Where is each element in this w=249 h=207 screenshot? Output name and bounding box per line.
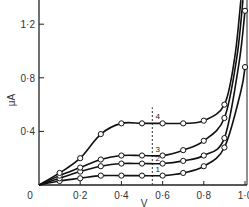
x-axis-label: V: [141, 198, 148, 207]
data-point-marker: [222, 145, 227, 150]
data-point-marker: [139, 153, 144, 158]
x-tick-label: 0·8: [197, 190, 212, 201]
data-point-marker: [139, 121, 144, 126]
data-point-marker: [119, 153, 124, 158]
data-point-marker: [139, 161, 144, 166]
data-point-marker: [78, 165, 83, 170]
curve-label-2: 2: [155, 154, 160, 163]
x-tick-label: 1·0: [238, 190, 249, 201]
data-point-marker: [119, 121, 124, 126]
data-point-marker: [201, 138, 206, 143]
curve-label-1: 1: [155, 165, 160, 174]
data-point-marker: [181, 148, 186, 153]
y-tick-label: 1·2: [21, 19, 36, 30]
data-point-marker: [242, 64, 247, 69]
data-point-marker: [78, 156, 83, 161]
y-tick-label: 0·4: [21, 126, 36, 137]
data-point-marker: [57, 170, 62, 175]
x-tick-label: 0·6: [155, 190, 170, 201]
data-point-marker: [98, 157, 103, 162]
axes: 00·20·40·60·81·00·40·81·2: [21, 0, 249, 201]
data-point-marker: [201, 164, 206, 169]
x-tick-label: 0: [27, 190, 33, 201]
x-tick-label: 0·4: [114, 190, 129, 201]
y-tick-label: 0·8: [21, 73, 36, 84]
curve-2: [39, 11, 245, 185]
data-point-marker: [160, 121, 165, 126]
x-tick-label: 0·2: [73, 190, 88, 201]
data-point-marker: [181, 170, 186, 175]
iv-curve-chart: 00·20·40·60·81·00·40·81·2 VμA1234: [0, 0, 249, 207]
curve-label-4: 4: [155, 112, 160, 121]
y-axis-label: μA: [6, 93, 17, 106]
data-markers: [57, 8, 248, 183]
data-point-marker: [181, 121, 186, 126]
data-point-marker: [222, 115, 227, 120]
data-point-marker: [98, 164, 103, 169]
data-point-marker: [98, 173, 103, 178]
data-point-marker: [160, 153, 165, 158]
data-point-marker: [222, 102, 227, 107]
data-point-marker: [160, 161, 165, 166]
data-point-marker: [119, 173, 124, 178]
data-point-marker: [201, 153, 206, 158]
data-point-marker: [181, 158, 186, 163]
data-point-marker: [98, 131, 103, 136]
data-point-marker: [242, 8, 247, 13]
data-point-marker: [201, 118, 206, 123]
curve-label-3: 3: [155, 145, 160, 154]
data-point-marker: [222, 136, 227, 141]
data-point-marker: [139, 173, 144, 178]
data-point-marker: [119, 161, 124, 166]
data-point-marker: [78, 176, 83, 181]
data-point-marker: [160, 173, 165, 178]
